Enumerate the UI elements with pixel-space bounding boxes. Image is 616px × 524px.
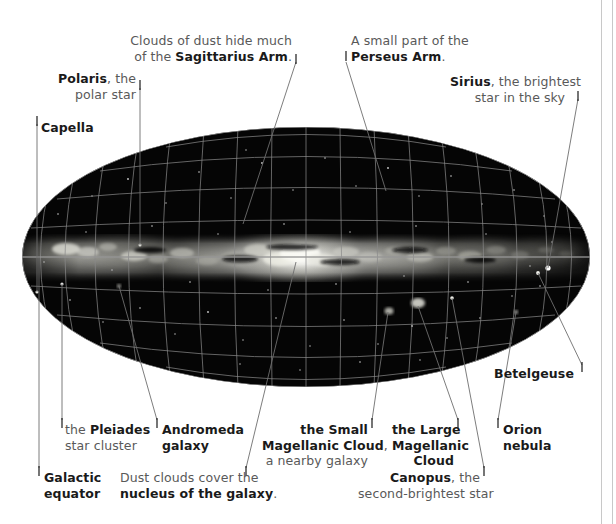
annotation-term: nebula xyxy=(503,438,552,453)
annotation-orion-nebula: Orionnebula xyxy=(503,422,555,453)
annotation-term: Magellanic xyxy=(392,438,469,453)
annotation-line: Orion xyxy=(503,422,555,438)
annotation-line: Betelgeuse xyxy=(486,366,574,382)
annotation-term: the Small xyxy=(300,422,368,437)
annotation-text: , xyxy=(384,438,388,453)
frame-rule-right-outer xyxy=(601,0,602,524)
small-magellanic-cloud-blob xyxy=(385,308,394,315)
annotation-term: the Large xyxy=(392,422,461,437)
annotation-text: A small part of the xyxy=(351,33,469,48)
annotation-text: star in the sky xyxy=(475,90,565,105)
annotation-large-magellanic-cloud: the LargeMagellanicCloud xyxy=(392,422,454,469)
annotation-line: equator xyxy=(44,486,112,502)
annotation-line: polar star xyxy=(38,87,136,103)
annotation-line: second-brightest star xyxy=(358,486,480,502)
annotation-term: Pleiades xyxy=(90,422,150,437)
annotation-line: of the Sagittarius Arm. xyxy=(130,49,292,65)
annotation-text: second-brightest star xyxy=(358,486,494,501)
annotation-small-magellanic-cloud: the SmallMagellanic Cloud,a nearby galax… xyxy=(262,422,368,469)
sky-map-figure: Polaris, thepolar starCapellaClouds of d… xyxy=(0,0,616,524)
annotation-term: Sagittarius Arm xyxy=(175,49,288,64)
annotation-galactic-equator: Galacticequator xyxy=(44,470,112,501)
annotation-line: Cloud xyxy=(392,453,454,469)
annotation-term: Galactic xyxy=(44,470,101,485)
annotation-line: Sirius, the brightest xyxy=(450,74,565,90)
annotation-term: Sirius xyxy=(450,74,491,89)
annotation-term: equator xyxy=(44,486,100,501)
annotation-term: Andromeda xyxy=(162,422,244,437)
annotation-term: Magellanic Cloud xyxy=(262,438,384,453)
annotation-line: Magellanic Cloud, xyxy=(262,438,368,454)
annotation-text: . xyxy=(273,486,277,501)
annotation-line: star in the sky xyxy=(450,90,565,106)
annotation-term: Betelgeuse xyxy=(494,366,574,381)
annotation-andromeda-galaxy: Andromedagalaxy xyxy=(162,422,244,453)
annotation-term: Cloud xyxy=(414,453,454,468)
annotation-polaris: Polaris, thepolar star xyxy=(38,71,136,102)
annotation-term: galaxy xyxy=(162,438,209,453)
annotation-text: the xyxy=(65,422,90,437)
annotation-betelgeuse: Betelgeuse xyxy=(486,366,574,382)
annotation-term: Canopus xyxy=(390,470,451,485)
annotation-line: the Small xyxy=(262,422,368,438)
annotation-nucleus-of-the-galaxy: Dust clouds cover thenucleus of the gala… xyxy=(120,470,242,501)
annotation-line: the Large xyxy=(392,422,454,438)
annotation-line: Perseus Arm. xyxy=(351,49,471,65)
annotation-line: nebula xyxy=(503,438,555,454)
annotation-line: Galactic xyxy=(44,470,112,486)
annotation-term: Polaris xyxy=(58,71,107,86)
annotation-capella: Capella xyxy=(41,120,111,136)
annotation-text: . xyxy=(441,49,445,64)
annotation-text: , the xyxy=(107,71,136,86)
annotation-text: star cluster xyxy=(65,438,137,453)
annotation-term: Capella xyxy=(41,120,94,135)
annotation-line: Polaris, the xyxy=(38,71,136,87)
annotation-term: nucleus of the galaxy xyxy=(120,486,273,501)
annotation-text: of the xyxy=(134,49,175,64)
annotation-line: Dust clouds cover the xyxy=(120,470,242,486)
annotation-line: the Pleiades xyxy=(65,422,151,438)
annotation-text: Dust clouds cover the xyxy=(120,470,259,485)
annotation-line: Magellanic xyxy=(392,438,454,454)
annotation-text: , the xyxy=(451,470,480,485)
annotation-text: , the brightest xyxy=(491,74,581,89)
annotation-line: galaxy xyxy=(162,438,244,454)
annotation-line: Clouds of dust hide much xyxy=(130,33,292,49)
annotation-sirius: Sirius, the brighteststar in the sky xyxy=(450,74,565,105)
annotation-line: star cluster xyxy=(65,438,151,454)
annotation-line: Canopus, the xyxy=(358,470,480,486)
annotation-pleiades-star-cluster: the Pleiadesstar cluster xyxy=(65,422,151,453)
annotation-text: a nearby galaxy xyxy=(266,453,368,468)
annotation-line: A small part of the xyxy=(351,33,471,49)
annotation-line: a nearby galaxy xyxy=(262,453,368,469)
annotation-line: Capella xyxy=(41,120,111,136)
annotation-canopus: Canopus, thesecond-brightest star xyxy=(358,470,480,501)
annotation-perseus-arm: A small part of thePerseus Arm. xyxy=(351,33,471,64)
annotation-term: Orion xyxy=(503,422,542,437)
annotation-sagittarius-arm: Clouds of dust hide muchof the Sagittari… xyxy=(130,33,292,64)
annotation-line: Andromeda xyxy=(162,422,244,438)
annotation-line: nucleus of the galaxy. xyxy=(120,486,242,502)
frame-rule-right-inner xyxy=(612,0,613,524)
annotation-term: Perseus Arm xyxy=(351,49,441,64)
annotation-text: Clouds of dust hide much xyxy=(130,33,292,48)
annotation-text: polar star xyxy=(75,87,136,102)
annotation-text: . xyxy=(288,49,292,64)
